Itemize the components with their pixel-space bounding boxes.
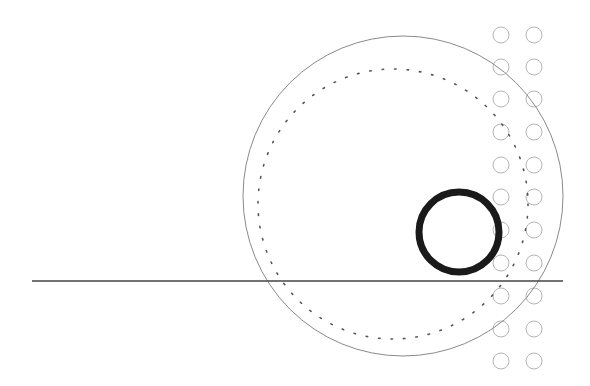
small-circle bbox=[526, 59, 542, 75]
small-circle bbox=[526, 353, 542, 369]
small-circle bbox=[526, 255, 542, 271]
small-circle bbox=[493, 288, 509, 304]
small-circle bbox=[493, 27, 509, 43]
small-circle bbox=[493, 91, 509, 107]
small-circle-grid bbox=[493, 27, 542, 369]
small-circle bbox=[493, 59, 509, 75]
small-circle bbox=[526, 189, 542, 205]
small-circle bbox=[493, 353, 509, 369]
small-circle bbox=[493, 321, 509, 337]
small-circle bbox=[526, 124, 542, 140]
small-circle bbox=[526, 157, 542, 173]
small-circle bbox=[493, 255, 509, 271]
small-circle bbox=[526, 27, 542, 43]
small-circle bbox=[526, 222, 542, 238]
outer-circle bbox=[243, 36, 563, 356]
small-circle bbox=[526, 321, 542, 337]
thick-circle bbox=[419, 192, 499, 272]
diagram-canvas bbox=[0, 0, 590, 386]
small-circle bbox=[493, 189, 509, 205]
small-circle bbox=[493, 124, 509, 140]
small-circle bbox=[493, 157, 509, 173]
